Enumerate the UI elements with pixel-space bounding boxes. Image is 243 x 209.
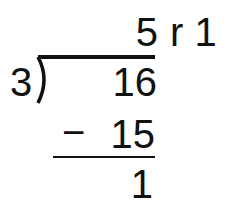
dividend: 16 <box>95 62 157 102</box>
division-bar <box>38 55 155 59</box>
minus-sign: − <box>62 112 85 152</box>
divisor: 3 <box>10 62 32 102</box>
division-bracket <box>34 55 54 105</box>
quotient: 5 <box>118 12 158 52</box>
remainder-label: r 1 <box>170 12 217 52</box>
difference: 1 <box>110 164 153 204</box>
subtraction-line <box>53 156 155 158</box>
subtrahend: 15 <box>95 114 155 154</box>
